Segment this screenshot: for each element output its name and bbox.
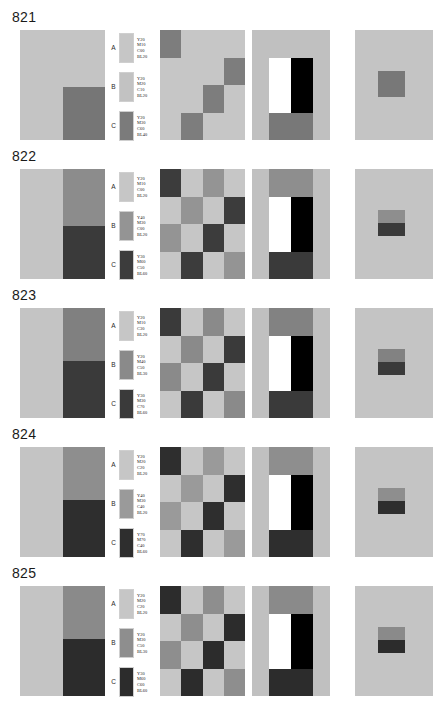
white-bar (269, 58, 291, 113)
bar-contrast-panel (252, 308, 330, 418)
legend-ink-values: Y20M30C50BL30 (137, 632, 147, 655)
checker-cell (181, 113, 202, 141)
quadrant-left-half (20, 30, 63, 140)
checker-cell (224, 614, 245, 642)
legend-color-swatch (119, 589, 134, 619)
legend-letter: B (108, 640, 119, 647)
color-plate-sheet: 821AY20M10C00BL20BY20M20C10BL20CY20M30C6… (0, 0, 448, 704)
checker-cell (203, 30, 224, 58)
ink-legend: AY20M20C20BL20BY20M30C50BL30CY30M60C60BL… (108, 586, 160, 696)
checker-cell (203, 85, 224, 113)
checker-cell (224, 85, 245, 113)
white-bar (269, 197, 291, 252)
legend-row-c: CY30M30C70BL60 (108, 389, 160, 419)
checker-cell (160, 475, 181, 503)
checker-cell (224, 197, 245, 225)
quadrant-field-panel (20, 30, 105, 140)
checker-cell (160, 169, 181, 197)
checker-cell (203, 113, 224, 141)
center-patch-bottom (378, 501, 405, 514)
legend-ink-values: Y30M30C70BL60 (137, 393, 147, 416)
checker-cell (160, 502, 181, 530)
legend-color-swatch (119, 450, 134, 480)
ink-legend: AY20M10C00BL20BY40M30C00BL20CY30M60C50BL… (108, 169, 160, 279)
checker-cell (224, 58, 245, 86)
legend-ink-values: Y40M30C00BL20 (137, 215, 147, 238)
checker-cell (203, 475, 224, 503)
quadrant-left-half (20, 308, 63, 418)
checker-cell (160, 85, 181, 113)
center-patch-bottom (378, 362, 405, 375)
checker-cell (181, 169, 202, 197)
white-bar (269, 336, 291, 391)
checker-cell (224, 641, 245, 669)
checker-cell (181, 336, 202, 364)
plate-block: 824AY20M20C20BL20BY40M30C40BL20CY70M70C4… (0, 425, 448, 564)
plate-block: 822AY20M10C00BL20BY40M30C00BL20CY30M60C5… (0, 147, 448, 286)
checker-cell (160, 30, 181, 58)
checker-cell (160, 252, 181, 280)
checker-cell (160, 641, 181, 669)
bottom-bar-field (269, 252, 313, 280)
checker-cell (203, 614, 224, 642)
checker-cell (203, 252, 224, 280)
checker-cell (181, 308, 202, 336)
center-patch (378, 488, 405, 514)
checker-cell (224, 169, 245, 197)
legend-letter: C (108, 123, 119, 130)
legend-ink-values: Y20M10C00BL20 (137, 176, 147, 199)
checker-cell (160, 669, 181, 697)
legend-letter: A (108, 184, 119, 191)
checker-cell (181, 475, 202, 503)
checker-cell (203, 169, 224, 197)
checker-cell (160, 58, 181, 86)
legend-letter: A (108, 323, 119, 330)
quadrant-right-top (63, 308, 106, 361)
quadrant-right-bottom (63, 500, 106, 557)
checkerboard-panel (160, 30, 245, 140)
center-patch-top (378, 349, 405, 362)
legend-color-swatch (119, 350, 134, 380)
checker-cell (203, 197, 224, 225)
legend-row-a: AY20M10C30BL20 (108, 311, 160, 341)
legend-ink-values: Y20M20C20BL20 (137, 454, 147, 477)
center-patch-top (378, 488, 405, 501)
legend-row-b: BY40M30C40BL20 (108, 489, 160, 519)
center-patch-top (378, 71, 405, 84)
legend-letter: C (108, 540, 119, 547)
black-bar (291, 58, 313, 113)
quadrant-right-bottom (63, 361, 106, 418)
legend-row-b: BY20M40C50BL30 (108, 350, 160, 380)
quadrant-field-panel (20, 308, 105, 418)
legend-row-c: CY30M60C60BL60 (108, 667, 160, 697)
center-patch-top (378, 210, 405, 223)
checker-cell (224, 475, 245, 503)
checker-cell (181, 197, 202, 225)
checker-cell (181, 502, 202, 530)
quadrant-left-half (20, 447, 63, 557)
checker-cell (160, 391, 181, 419)
legend-row-c: CY70M70C40BL60 (108, 528, 160, 558)
checker-cell (203, 58, 224, 86)
centered-patch-panel (355, 30, 433, 140)
quadrant-right-top (63, 30, 106, 87)
checker-cell (203, 502, 224, 530)
legend-letter: B (108, 84, 119, 91)
legend-letter: C (108, 401, 119, 408)
checker-cell (160, 113, 181, 141)
quadrant-right-top (63, 169, 106, 226)
checker-cell (181, 586, 202, 614)
bottom-bar-field (269, 669, 313, 697)
center-patch (378, 627, 405, 653)
legend-letter: B (108, 362, 119, 369)
ink-value-line: BL20 (137, 232, 147, 238)
checkerboard-panel (160, 447, 245, 557)
ink-value-line: BL60 (137, 688, 147, 694)
checkerboard-panel (160, 308, 245, 418)
checker-cell (181, 530, 202, 558)
checker-cell (203, 391, 224, 419)
checker-cell (224, 252, 245, 280)
checker-cell (224, 502, 245, 530)
plate-block: 821AY20M10C00BL20BY20M20C10BL20CY20M30C6… (0, 8, 448, 147)
ink-value-line: BL30 (137, 649, 147, 655)
